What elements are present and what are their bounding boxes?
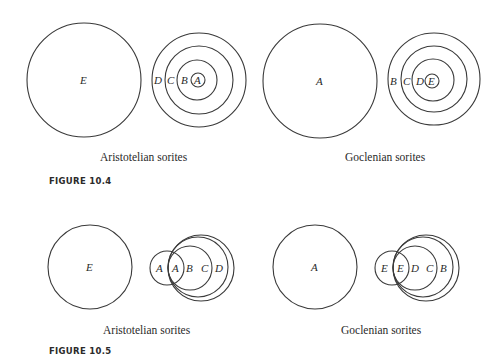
label-A: A xyxy=(315,75,323,87)
label-C: C xyxy=(403,75,411,87)
label-A: A xyxy=(310,261,318,273)
label-C: C xyxy=(201,262,209,274)
label-B: B xyxy=(390,75,397,87)
figure-label-10-5: FIGURE 10.5 xyxy=(49,346,111,356)
label-E: E xyxy=(85,261,93,273)
fig-10-4-goclenian-panel: A B C D E Goclenian sorites xyxy=(263,24,480,163)
label-D: D xyxy=(153,74,162,86)
sorites-diagram: E D C B A Aristotelian sorites A B C D E… xyxy=(0,0,497,358)
label-A: A xyxy=(193,74,201,86)
caption-goclenian: Goclenian sorites xyxy=(341,324,422,336)
label-B: B xyxy=(186,262,193,274)
caption-aristotelian: Aristotelian sorites xyxy=(100,151,188,163)
label-C: C xyxy=(426,262,434,274)
fig-10-5-goclenian-panel: A E E D C B Goclenian sorites xyxy=(273,225,459,336)
caption-aristotelian: Aristotelian sorites xyxy=(103,324,191,336)
label-D: D xyxy=(410,262,419,274)
caption-goclenian: Goclenian sorites xyxy=(345,151,426,163)
label-D: D xyxy=(415,75,424,87)
label-E-overlap: E xyxy=(396,262,404,274)
label-E: E xyxy=(79,74,87,86)
label-C: C xyxy=(167,74,175,86)
label-B: B xyxy=(440,262,447,274)
label-D: D xyxy=(214,262,223,274)
label-A-left: A xyxy=(155,262,163,274)
figure-label-10-4: FIGURE 10.4 xyxy=(49,176,111,186)
fig-10-5-aristotelian-panel: E A A B C D Aristotelian sorites xyxy=(48,225,234,336)
label-A-overlap: A xyxy=(171,262,179,274)
label-E-left: E xyxy=(380,262,388,274)
fig-10-4-aristotelian-panel: E D C B A Aristotelian sorites xyxy=(27,23,246,163)
label-E: E xyxy=(427,75,435,87)
label-B: B xyxy=(181,74,188,86)
